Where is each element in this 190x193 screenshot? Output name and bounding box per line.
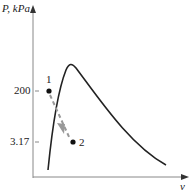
state-point-2 [70,139,75,144]
pv-diagram [0,0,190,193]
y-axis-label: P, kPa [2,2,30,14]
state-point-1 [46,88,51,93]
process-arrow-icon [57,123,65,134]
y-axis-arrow-icon [30,5,36,13]
tick-label-200: 200 [14,84,31,96]
x-axis-label: v [180,180,185,192]
saturation-dome [48,64,166,170]
tick-label-3-17: 3.17 [10,135,29,147]
point-label-1: 1 [46,73,52,85]
point-label-2: 2 [79,136,85,148]
